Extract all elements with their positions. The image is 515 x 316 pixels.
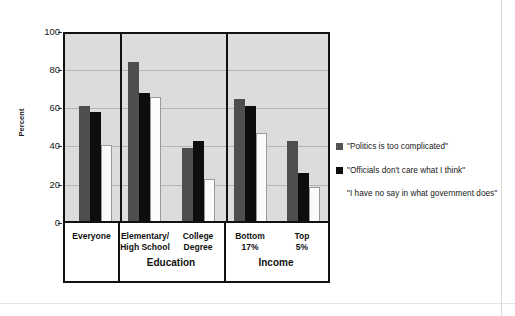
bar-officials-dont-care-cat2 (193, 141, 204, 221)
group-label-education: Education (118, 257, 224, 268)
bar-officials-dont-care-cat4 (298, 173, 309, 221)
category-label-elementary-high-school: Elementary/ High School (118, 231, 172, 252)
scan-edge-right (501, 0, 502, 316)
bar-no-say-in-government-cat2 (204, 179, 215, 221)
bar-politics-too-complicated-cat2 (182, 148, 193, 221)
y-axis-ticks: 100 80 60 40 20 0 (28, 0, 60, 316)
plot-area (63, 32, 330, 223)
y-tick-label-20: 20 (30, 180, 60, 190)
bar-no-say-in-government-cat0 (101, 145, 112, 221)
panel-divider-education (120, 34, 122, 221)
group-label-income: Income (224, 257, 328, 268)
y-tick-label-80: 80 (30, 65, 60, 75)
y-tick-label-0: 0 (30, 218, 60, 228)
legend-label-officials-dont-care: "Officials don't care what I think" (347, 166, 465, 177)
category-label-bottom-17: Bottom 17% (224, 231, 276, 252)
y-tick-mark-60 (58, 108, 62, 109)
bar-no-say-in-government-cat4 (309, 187, 320, 221)
y-tick-mark-80 (58, 70, 62, 71)
category-label-college-degree: College Degree (172, 231, 224, 252)
y-tick-mark-40 (58, 146, 62, 147)
panel-divider-income (226, 34, 228, 221)
legend-swatch-icon-black (336, 167, 343, 174)
bar-politics-too-complicated-cat4 (287, 141, 298, 221)
bar-no-say-in-government-cat1 (150, 97, 161, 221)
gridline-60 (65, 108, 328, 109)
bar-officials-dont-care-cat3 (245, 106, 256, 221)
legend: "Politics is too complicated" "Officials… (336, 142, 508, 213)
y-tick-label-60: 60 (30, 103, 60, 113)
y-tick-mark-20 (58, 185, 62, 186)
bar-officials-dont-care-cat1 (139, 93, 150, 221)
category-label-band: Everyone Elementary/ High School College… (63, 223, 330, 283)
gridline-80 (65, 70, 328, 71)
y-tick-label-100: 100 (30, 27, 60, 37)
category-label-everyone: Everyone (65, 231, 118, 242)
category-label-top-5: Top 5% (276, 231, 328, 252)
y-axis-title: Percent (17, 88, 26, 158)
legend-swatch-icon-dark-gray (336, 143, 343, 150)
bar-officials-dont-care-cat0 (90, 112, 101, 221)
y-tick-mark-0 (58, 223, 62, 224)
legend-label-no-say-in-government: "I have no say in what government does" (347, 189, 497, 200)
bar-chart-figure: Percent 100 80 60 40 20 0 Everyone Eleme (0, 0, 515, 316)
legend-item-no-say-in-government: "I have no say in what government does" (336, 189, 508, 200)
scan-edge-bottom (0, 303, 515, 304)
y-tick-mark-100 (58, 32, 62, 33)
legend-swatch-icon-white (336, 190, 343, 197)
legend-item-politics-too-complicated: "Politics is too complicated" (336, 142, 508, 153)
legend-item-officials-dont-care: "Officials don't care what I think" (336, 166, 508, 177)
bar-politics-too-complicated-cat0 (79, 106, 90, 221)
legend-label-politics-too-complicated: "Politics is too complicated" (347, 142, 448, 153)
bar-no-say-in-government-cat3 (256, 133, 267, 221)
y-tick-label-40: 40 (30, 141, 60, 151)
bar-politics-too-complicated-cat3 (234, 99, 245, 221)
bar-politics-too-complicated-cat1 (128, 62, 139, 221)
